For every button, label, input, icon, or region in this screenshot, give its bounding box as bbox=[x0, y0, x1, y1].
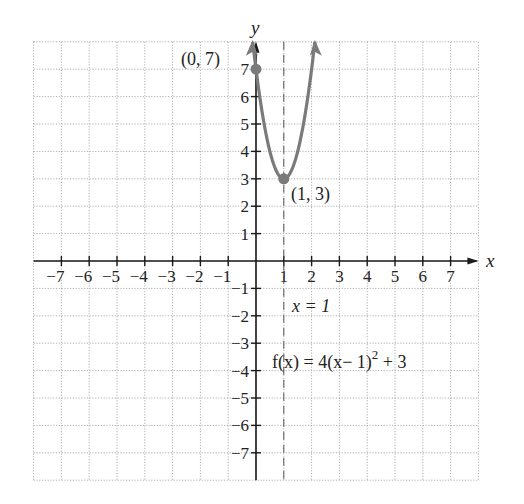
y-axis-label: y bbox=[249, 17, 260, 38]
y-tick-label: −1 bbox=[231, 279, 249, 298]
function-tail: + 3 bbox=[378, 352, 406, 372]
y-tick-label: −4 bbox=[231, 362, 250, 381]
function-main: f(x) = 4(x− 1) bbox=[272, 352, 372, 373]
y-tick-label: 6 bbox=[241, 88, 250, 107]
x-tick-label: −2 bbox=[185, 267, 203, 286]
marked-point bbox=[278, 173, 289, 184]
x-tick-label: 2 bbox=[307, 267, 316, 286]
point-label-1-3: (1, 3) bbox=[291, 184, 330, 205]
x-axis-arrow-icon bbox=[467, 258, 478, 265]
x-tick-label: −7 bbox=[46, 267, 65, 286]
y-tick-label: −2 bbox=[231, 307, 249, 326]
x-tick-label: −6 bbox=[74, 267, 92, 286]
marked-point bbox=[251, 64, 262, 75]
y-tick-label: 3 bbox=[241, 170, 250, 189]
point-label-0-7: (0, 7) bbox=[181, 49, 220, 70]
x-tick-label: −3 bbox=[158, 267, 176, 286]
y-tick-label: 1 bbox=[241, 225, 250, 244]
x-tick-label: 6 bbox=[419, 267, 428, 286]
x-tick-label: −1 bbox=[213, 267, 231, 286]
y-tick-label: 4 bbox=[241, 142, 250, 161]
x-tick-label: 4 bbox=[363, 267, 372, 286]
x-tick-label: 5 bbox=[391, 267, 400, 286]
x-tick-label: 3 bbox=[335, 267, 344, 286]
y-tick-label: 2 bbox=[241, 197, 250, 216]
y-tick-label: −3 bbox=[231, 334, 249, 353]
x-tick-label: −4 bbox=[130, 267, 149, 286]
y-tick-label: −5 bbox=[231, 389, 249, 408]
y-tick-label: −7 bbox=[231, 444, 250, 463]
y-tick-label: 5 bbox=[241, 115, 250, 134]
axes bbox=[34, 42, 479, 480]
parabola-chart: −7−6−5−4−3−2−11234567−7−6−5−4−3−2−112345… bbox=[0, 0, 524, 504]
x-tick-label: 7 bbox=[446, 267, 455, 286]
symmetry-label: x = 1 bbox=[291, 296, 330, 316]
x-tick-label: −5 bbox=[102, 267, 120, 286]
y-tick-label: −6 bbox=[231, 416, 249, 435]
x-axis-label: x bbox=[485, 250, 495, 271]
y-tick-label: 7 bbox=[241, 60, 250, 79]
